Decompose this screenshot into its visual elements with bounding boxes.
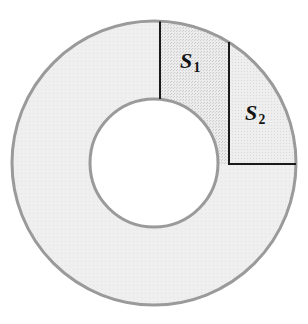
region-label-s2-letter: S <box>245 100 257 125</box>
region-label-s1-subscript: 1 <box>193 60 200 75</box>
region-label-s1: S1 <box>180 48 199 74</box>
region-label-s2: S2 <box>245 100 264 126</box>
region-label-s1-letter: S <box>180 48 192 73</box>
annulus-diagram-svg <box>0 0 308 324</box>
region-label-s2-subscript: 2 <box>258 112 265 127</box>
region-s2-shape <box>229 0 308 164</box>
annulus-figure: S1 S2 <box>0 0 308 324</box>
region-s2-band <box>229 0 308 164</box>
